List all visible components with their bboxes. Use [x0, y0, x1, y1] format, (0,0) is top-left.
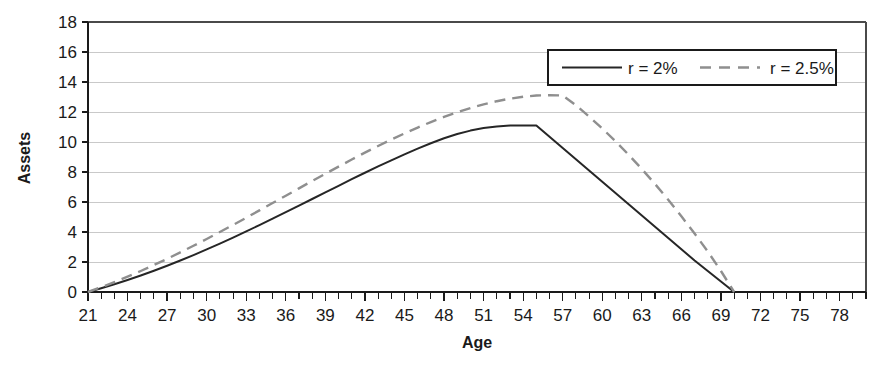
x-tick-label-78: 78	[830, 306, 849, 325]
y-tick-label-14: 14	[58, 73, 77, 92]
x-tick-label-30: 30	[197, 306, 216, 325]
x-tick-label-51: 51	[474, 306, 493, 325]
x-tick-label-60: 60	[593, 306, 612, 325]
x-tick-label-48: 48	[435, 306, 454, 325]
y-tick-label-0: 0	[68, 283, 77, 302]
x-tick-label-36: 36	[276, 306, 295, 325]
y-tick-label-8: 8	[68, 163, 77, 182]
y-tick-label-10: 10	[58, 133, 77, 152]
legend-label-1: r = 2.5%	[770, 59, 834, 78]
x-tick-label-66: 66	[672, 306, 691, 325]
y-tick-label-2: 2	[68, 253, 77, 272]
x-tick-label-45: 45	[395, 306, 414, 325]
x-tick-label-42: 42	[355, 306, 374, 325]
x-tick-label-24: 24	[118, 306, 137, 325]
x-tick-label-57: 57	[553, 306, 572, 325]
y-tick-label-16: 16	[58, 43, 77, 62]
y-tick-label-6: 6	[68, 193, 77, 212]
x-axis: 2124273033363942454851545760636669727578	[79, 292, 866, 325]
legend[interactable]: r = 2%r = 2.5%	[548, 50, 836, 85]
series-line-0	[88, 126, 734, 293]
x-axis-title: Age	[462, 334, 492, 351]
assets-by-age-line-chart: 024681012141618 212427303336394245485154…	[0, 0, 887, 372]
y-tick-label-18: 18	[58, 13, 77, 32]
y-tick-label-4: 4	[68, 223, 77, 242]
x-tick-label-33: 33	[237, 306, 256, 325]
y-tick-label-12: 12	[58, 103, 77, 122]
chart-canvas: 024681012141618 212427303336394245485154…	[0, 0, 887, 372]
x-tick-label-75: 75	[791, 306, 810, 325]
x-tick-label-69: 69	[711, 306, 730, 325]
x-tick-label-27: 27	[158, 306, 177, 325]
x-tick-label-54: 54	[514, 306, 533, 325]
legend-label-0: r = 2%	[628, 59, 678, 78]
x-tick-label-63: 63	[632, 306, 651, 325]
x-tick-label-21: 21	[79, 306, 98, 325]
x-tick-label-39: 39	[316, 306, 335, 325]
y-axis-title: Assets	[16, 132, 33, 185]
y-axis: 024681012141618	[58, 13, 88, 302]
x-tick-label-72: 72	[751, 306, 770, 325]
